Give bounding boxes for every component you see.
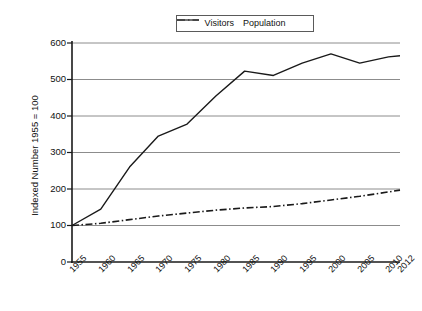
- series-line-population: [72, 190, 400, 225]
- line-chart: Visitors Population Indexed Number 1955 …: [0, 0, 422, 311]
